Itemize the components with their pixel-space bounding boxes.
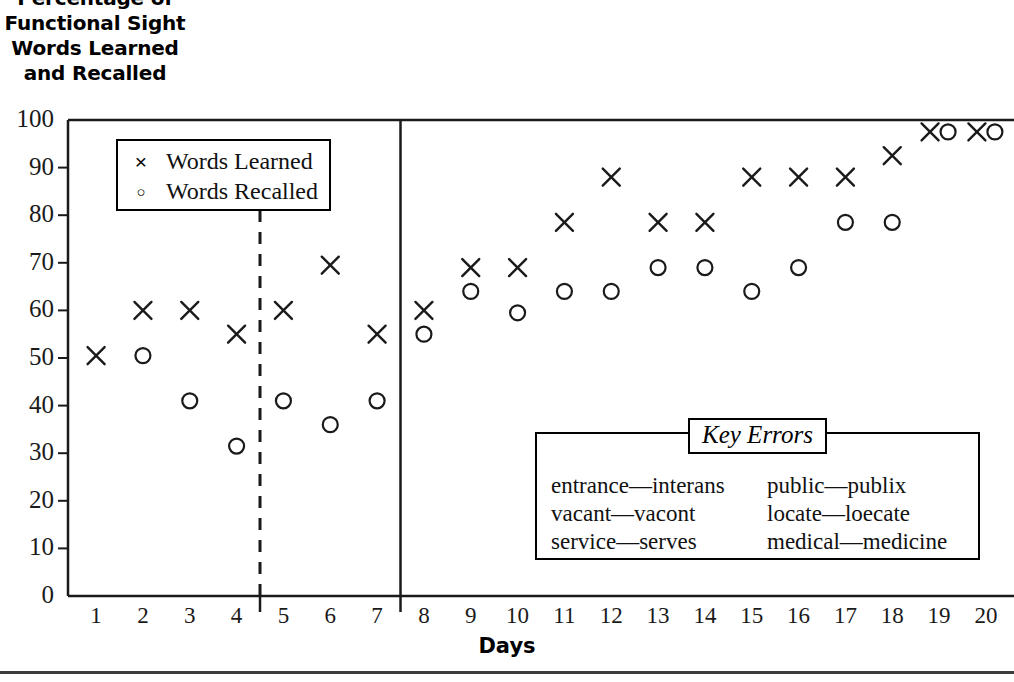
o-marker-shape xyxy=(987,124,1002,139)
o-marker-shape xyxy=(941,124,956,139)
x-axis-title: Days xyxy=(0,634,1014,658)
data-point-x-day-2 xyxy=(134,302,151,319)
x-tick-label: 1 xyxy=(71,604,121,627)
x-tick-label: 15 xyxy=(727,604,777,627)
key-errors-column-1: entrance—interansvacant—vacontservice—se… xyxy=(551,472,725,556)
o-marker-shape xyxy=(557,284,572,299)
data-point-o-day-17 xyxy=(838,215,853,230)
y-tick-label: 20 xyxy=(0,487,54,512)
o-marker-icon: ○ xyxy=(132,181,150,202)
data-point-x-day-11 xyxy=(556,214,573,231)
key-error-item: public—publix xyxy=(767,472,947,500)
y-tick-label: 60 xyxy=(0,296,54,321)
x-tick-label: 4 xyxy=(212,604,262,627)
data-point-x-day-16 xyxy=(790,169,807,186)
o-marker-shape xyxy=(838,215,853,230)
legend-item-words-recalled: ○ Words Recalled xyxy=(132,176,318,206)
data-point-x-day-3 xyxy=(181,302,198,319)
x-tick-label: 10 xyxy=(493,604,543,627)
x-tick-label: 6 xyxy=(305,604,355,627)
o-marker-shape xyxy=(182,393,197,408)
y-tick-label: 10 xyxy=(0,534,54,559)
o-marker-shape xyxy=(744,284,759,299)
x-tick-label: 8 xyxy=(399,604,449,627)
y-tick-label: 50 xyxy=(0,344,54,369)
data-point-x-day-17 xyxy=(837,169,854,186)
data-point-o-day-19 xyxy=(941,124,956,139)
o-marker-shape xyxy=(885,215,900,230)
o-marker-shape xyxy=(416,327,431,342)
y-tick-label: 40 xyxy=(0,392,54,417)
data-point-x-day-1 xyxy=(88,347,105,364)
data-point-x-day-9 xyxy=(462,259,479,276)
data-point-x-day-18 xyxy=(884,147,901,164)
key-errors-column-2: public—publixlocate—loecatemedical—medic… xyxy=(767,472,947,556)
key-error-item: medical—medicine xyxy=(767,528,947,556)
key-error-item: service—serves xyxy=(551,528,725,556)
data-point-o-day-16 xyxy=(791,260,806,275)
x-marker-icon: × xyxy=(132,151,150,172)
y-tick-label: 90 xyxy=(0,154,54,179)
data-point-x-day-6 xyxy=(322,257,339,274)
data-point-x-day-19 xyxy=(922,123,939,140)
x-tick-label: 5 xyxy=(258,604,308,627)
o-marker-shape xyxy=(370,393,385,408)
data-point-o-day-5 xyxy=(276,393,291,408)
bottom-divider xyxy=(0,671,1014,674)
data-point-x-day-7 xyxy=(369,326,386,343)
data-point-o-day-14 xyxy=(697,260,712,275)
data-point-x-day-20 xyxy=(968,123,985,140)
x-tick-label: 18 xyxy=(867,604,917,627)
y-tick-label: 80 xyxy=(0,201,54,226)
key-errors-title: Key Errors xyxy=(688,418,827,454)
x-tick-label: 20 xyxy=(961,604,1011,627)
data-point-x-day-12 xyxy=(603,169,620,186)
x-tick-label: 3 xyxy=(165,604,215,627)
data-point-x-day-4 xyxy=(228,326,245,343)
o-marker-shape xyxy=(229,439,244,454)
o-marker-shape xyxy=(791,260,806,275)
x-tick-label: 9 xyxy=(446,604,496,627)
x-tick-label: 11 xyxy=(539,604,589,627)
scatter-plot-svg xyxy=(0,0,1014,682)
data-point-x-day-5 xyxy=(275,302,292,319)
data-point-x-day-13 xyxy=(650,214,667,231)
data-point-o-day-11 xyxy=(557,284,572,299)
o-marker-shape xyxy=(135,348,150,363)
x-tick-label: 7 xyxy=(352,604,402,627)
x-tick-label: 17 xyxy=(820,604,870,627)
o-marker-shape xyxy=(276,393,291,408)
key-error-item: locate—loecate xyxy=(767,500,947,528)
o-marker-shape xyxy=(604,284,619,299)
data-point-o-day-10 xyxy=(510,305,525,320)
plot-area xyxy=(0,0,1014,682)
data-point-o-day-7 xyxy=(370,393,385,408)
data-point-o-day-20 xyxy=(987,124,1002,139)
data-point-o-day-6 xyxy=(323,417,338,432)
o-marker-shape xyxy=(697,260,712,275)
key-error-item: entrance—interans xyxy=(551,472,725,500)
data-point-o-day-12 xyxy=(604,284,619,299)
data-point-o-day-9 xyxy=(463,284,478,299)
x-tick-label: 19 xyxy=(914,604,964,627)
data-point-o-day-2 xyxy=(135,348,150,363)
legend-label-words-recalled: Words Recalled xyxy=(166,178,318,204)
data-point-o-day-8 xyxy=(416,327,431,342)
o-marker-shape xyxy=(651,260,666,275)
x-tick-label: 12 xyxy=(586,604,636,627)
x-tick-label: 14 xyxy=(680,604,730,627)
o-marker-shape xyxy=(323,417,338,432)
x-tick-label: 2 xyxy=(118,604,168,627)
data-point-x-day-15 xyxy=(743,169,760,186)
data-point-x-day-10 xyxy=(509,259,526,276)
data-point-x-day-14 xyxy=(696,214,713,231)
data-point-o-day-13 xyxy=(651,260,666,275)
y-tick-label: 0 xyxy=(0,582,54,607)
data-point-x-day-8 xyxy=(415,302,432,319)
o-marker-shape xyxy=(463,284,478,299)
key-error-item: vacant—vacont xyxy=(551,500,725,528)
legend-item-words-learned: × Words Learned xyxy=(132,146,313,176)
y-tick-label: 70 xyxy=(0,249,54,274)
data-point-o-day-15 xyxy=(744,284,759,299)
legend: × Words Learned ○ Words Recalled xyxy=(116,139,331,211)
